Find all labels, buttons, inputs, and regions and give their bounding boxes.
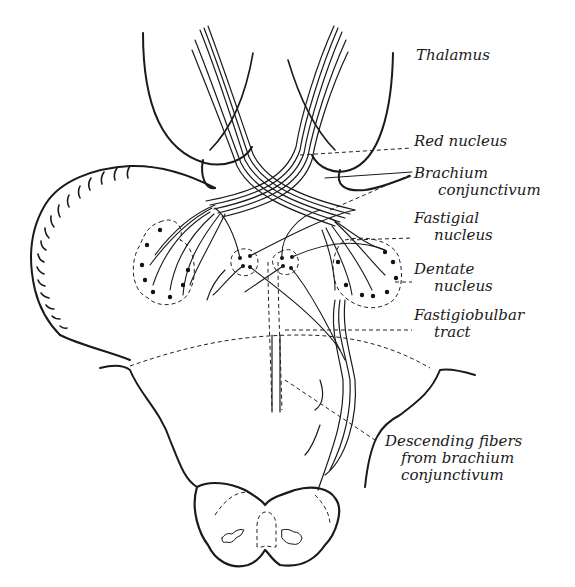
label-dentate-nucleus: Dentate nucleus — [414, 261, 493, 295]
leader-lines — [285, 148, 412, 440]
left-thalamus-outline — [143, 33, 252, 165]
cerebellum-outline — [31, 166, 215, 335]
descending-fibers — [272, 300, 355, 490]
medulla-section — [195, 483, 340, 566]
right-dentate-fibers — [322, 218, 385, 295]
label-descending-fibers: Descending fibers from brachium conjunct… — [385, 433, 522, 484]
label-red-nucleus: Red nucleus — [414, 133, 507, 150]
label-fastigial-nucleus: Fastigial nucleus — [414, 210, 493, 244]
right-dentate-outline — [333, 238, 401, 308]
left-dentate-fibers — [150, 205, 225, 295]
fastigial-fibers — [207, 208, 385, 360]
diagram-canvas: Thalamus Red nucleus Brachium conjunctiv… — [0, 0, 575, 587]
brachium-conjunctivum-left-bundle — [192, 26, 355, 226]
brachium-conjunctivum-right-bundle — [206, 26, 348, 217]
left-fastigial-outline — [231, 249, 258, 276]
cerebellar-folia — [37, 166, 130, 328]
label-thalamus: Thalamus — [416, 47, 490, 64]
label-brachium-conjunctivum: Brachium conjunctivum — [414, 165, 541, 199]
fastigial-cells — [238, 254, 294, 270]
left-dentate-outline — [133, 220, 194, 305]
label-fastigiobulbar-tract: Fastigiobulbar tract — [414, 307, 524, 341]
right-dentate-cells — [336, 250, 398, 298]
brainstem-outline — [100, 366, 197, 487]
left-dentate-cells — [140, 228, 190, 299]
